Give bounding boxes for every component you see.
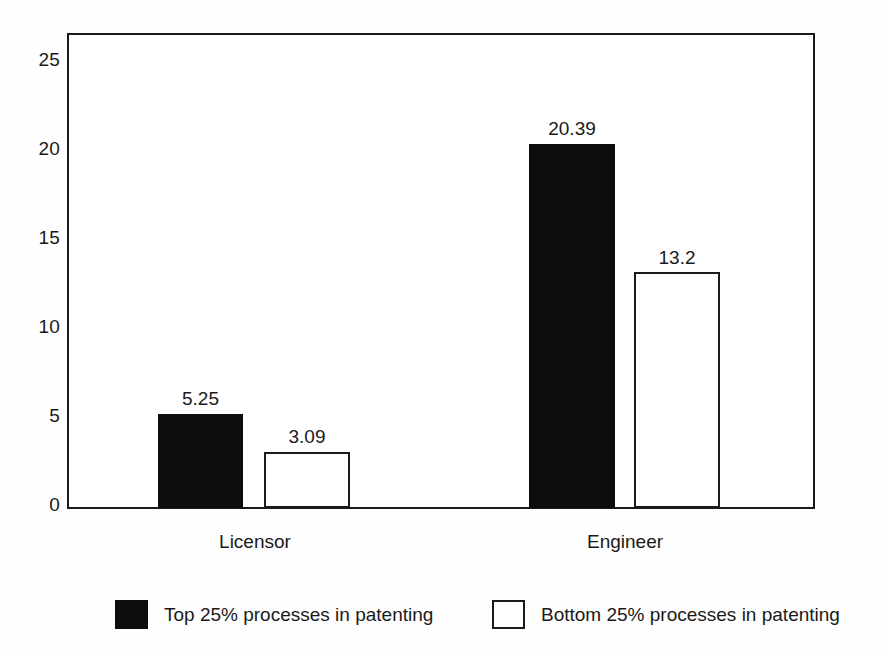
bar-engineer-top25[interactable]: [529, 144, 615, 508]
category-label-engineer: Engineer: [530, 532, 720, 551]
y-tick-label-25: 25: [2, 50, 60, 69]
y-tick-label-0: 0: [2, 495, 60, 514]
bars-layer: 5.25 3.09 20.39 13.2: [67, 33, 815, 509]
legend-label-bottom25: Bottom 25% processes in patenting: [541, 605, 840, 624]
bar-licensor-top25[interactable]: [158, 414, 243, 508]
category-label-licensor: Licensor: [160, 532, 350, 551]
bar-chart-figure: 25 20 15 10 5 0 5.25 3.09 20.39 13.2 Lic…: [0, 0, 882, 654]
bar-value-licensor-top25: 5.25: [158, 389, 243, 408]
y-tick-label-15: 15: [2, 228, 60, 247]
legend-label-top25: Top 25% processes in patenting: [164, 605, 433, 624]
y-tick-label-10: 10: [2, 317, 60, 336]
legend-entry-top25[interactable]: Top 25% processes in patenting: [115, 596, 433, 632]
bar-value-engineer-top25: 20.39: [529, 119, 615, 138]
bar-value-engineer-bottom25: 13.2: [634, 248, 720, 267]
y-tick-label-5: 5: [2, 406, 60, 425]
y-tick-label-20: 20: [2, 139, 60, 158]
bar-engineer-bottom25[interactable]: [634, 272, 720, 508]
legend-swatch-filled-icon: [115, 600, 148, 629]
legend: Top 25% processes in patenting Bottom 25…: [110, 596, 810, 636]
bar-licensor-bottom25[interactable]: [264, 452, 350, 508]
legend-swatch-hollow-icon: [492, 600, 525, 629]
bar-value-licensor-bottom25: 3.09: [264, 427, 350, 446]
y-axis: 25 20 15 10 5 0: [0, 33, 60, 509]
legend-entry-bottom25[interactable]: Bottom 25% processes in patenting: [492, 596, 840, 632]
